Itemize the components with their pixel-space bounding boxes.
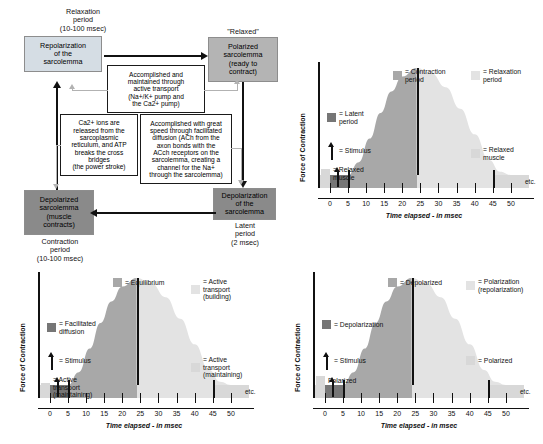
arrowhead-to-depolarized <box>90 209 97 217</box>
legend-label: = Relaxedmuscle <box>483 146 514 161</box>
x-tick <box>438 183 439 193</box>
x-tick-label: 30 <box>424 410 442 417</box>
x-tick <box>506 393 507 403</box>
box-depolarization: Depolarizationof thesarcolemma <box>213 188 276 220</box>
legend-label: = Relaxationperiod <box>483 68 521 83</box>
x-tick-label: 10 <box>357 200 375 207</box>
x-tick-label: 20 <box>113 410 131 417</box>
connector-active-transport-right-h <box>204 90 238 91</box>
caption-relaxation-period: Relaxationperiod(10-100 msec) <box>28 8 138 33</box>
caption-latent-period: Latentperiod(2 msec) <box>206 222 284 247</box>
flow-diagram: Relaxationperiod(10-100 msec) "Relaxed" … <box>0 0 290 278</box>
stimulus-arrow-icon <box>327 142 336 160</box>
legend-label: = Activetransport(maintaining) <box>203 356 242 379</box>
y-axis-label: Force of Contraction <box>19 323 26 392</box>
x-tick-label: 10 <box>77 410 95 417</box>
x-axis <box>318 198 534 199</box>
legend-item-equilibrium: = Equilibrium <box>113 278 164 287</box>
x-tick <box>488 393 489 403</box>
box-facilitated-diffusion: Accomplished with greatspeed through fac… <box>140 114 232 184</box>
arrow-repolarized-to-polarized <box>104 55 202 57</box>
caption-contraction-period: Contractionperiod(10-100 msec) <box>16 238 104 263</box>
x-tick <box>195 393 196 403</box>
x-tick <box>213 393 214 403</box>
x-tick <box>379 393 380 403</box>
legend-label: = Stimulus <box>59 357 91 365</box>
legend-item-facilitated-diffusion: = Facilitateddiffusion <box>47 320 96 335</box>
legend-swatch <box>113 278 122 287</box>
x-tick-label: 5 <box>59 410 77 417</box>
x-tick-label: 40 <box>466 200 484 207</box>
legend-item-depolarization: = Depolarization <box>322 320 383 329</box>
x-tick-label: 5 <box>339 200 357 207</box>
legend-swatch <box>322 320 331 329</box>
legend-label: = Activetransport(building) <box>203 278 231 301</box>
x-tick-label: 25 <box>131 410 149 417</box>
x-axis-label: Time elapsed - in msec <box>39 422 249 429</box>
legend-swatch <box>388 278 397 287</box>
x-tick <box>493 183 494 193</box>
legend-label: = Relaxedmuscle <box>333 166 364 181</box>
box-active-transport: Accomplished andmaintained throughactive… <box>107 65 205 113</box>
x-tick-label: 25 <box>406 410 424 417</box>
x-tick-label: 35 <box>448 200 466 207</box>
x-tick <box>231 393 232 403</box>
legend-item-relaxation-period: = Relaxationperiod <box>471 68 521 83</box>
connector-facilitated-v <box>241 148 242 181</box>
x-tick-label: 0 <box>316 410 334 417</box>
caption-relaxed: "Relaxed" <box>198 28 288 36</box>
chart-bottom-left: Force of Contraction05101520253035404550… <box>13 268 263 438</box>
legend-swatch <box>316 376 325 385</box>
legend-item-active-transport-building: = Activetransport(building) <box>191 278 231 301</box>
x-tick <box>104 393 105 403</box>
x-tick <box>457 183 458 193</box>
legend-item-stimulus: = Stimulus <box>322 352 366 370</box>
x-tick-label: 15 <box>375 200 393 207</box>
y-axis <box>38 272 40 398</box>
legend-item-latent-period: = Latentperiod <box>327 110 364 125</box>
legend-item-relaxed-muscle-left: = Relaxedmuscle <box>321 166 364 181</box>
box-polarized-sarcolemma: Polarizedsarcolemma(ready tocontract) <box>208 37 278 82</box>
legend-swatch <box>393 71 402 80</box>
x-tick-label: 45 <box>204 410 222 417</box>
x-tick <box>177 393 178 403</box>
x-tick <box>361 393 362 403</box>
arrow-polarized-to-depolarization <box>242 82 244 182</box>
connector-arrowhead-active-transport <box>69 84 75 89</box>
y-axis-label: Force of Contraction <box>294 323 301 392</box>
x-tick-label: 45 <box>479 410 497 417</box>
box-depolarized-sarcolemma: Depolarizedsarcolemma(musclecontracts) <box>24 190 94 235</box>
chart-bottom-right: Force of Contraction05101520253035404550… <box>288 268 538 438</box>
connector-arrowhead-active-transport-right <box>234 79 240 84</box>
legend-item-active-transport-maintaining-left: = Activetransport(maintaining) <box>41 376 92 399</box>
stimulus-arrow-icon <box>47 352 56 370</box>
x-tick-label: 0 <box>321 200 339 207</box>
x-tick-label: 20 <box>388 410 406 417</box>
legend-label: = Depolarized <box>400 279 442 287</box>
x-tick <box>122 393 123 403</box>
legend-swatch <box>191 285 200 294</box>
legend-swatch <box>41 383 50 392</box>
x-tick-label: 40 <box>186 410 204 417</box>
x-tick-label: 5 <box>334 410 352 417</box>
x-tick-label: 30 <box>429 200 447 207</box>
x-tick-label: 45 <box>484 200 502 207</box>
x-axis-label: Time elapsed - in msec <box>319 212 529 219</box>
x-tick <box>366 183 367 193</box>
legend-item-polarized-right: = Polarized <box>466 356 512 365</box>
legend-item-polarized-left: Polarized <box>316 376 356 385</box>
x-tick <box>397 393 398 403</box>
legend-swatch <box>471 71 480 80</box>
etc-label: etc. <box>245 388 255 395</box>
legend-label: Polarized <box>328 377 356 385</box>
x-tick <box>433 393 434 403</box>
legend-item-polarization: = Polarization(repolarization) <box>466 278 523 293</box>
x-axis <box>38 408 254 409</box>
legend-item-contraction-period: = Contractionperiod <box>393 68 446 83</box>
x-tick-label: 35 <box>168 410 186 417</box>
x-tick-label: 30 <box>149 410 167 417</box>
box-calcium-release: Ca2+ ions arereleased from thesarcoplasm… <box>60 114 138 176</box>
legend-label: = Stimulus <box>334 357 366 365</box>
etc-label: etc. <box>520 388 530 395</box>
x-tick-label: 50 <box>502 200 520 207</box>
